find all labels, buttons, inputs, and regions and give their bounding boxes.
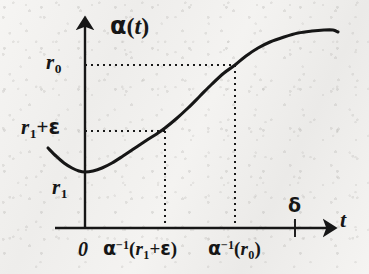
y-tick-label-r1-plus-epsilon: r1+ε	[21, 117, 60, 140]
y-axis-title: α(t)	[110, 14, 149, 38]
close-paren-glyph: )	[141, 13, 149, 39]
alpha-glyph: α	[103, 237, 116, 259]
subscript-1: 1	[60, 186, 67, 201]
alpha-glyph: α	[110, 12, 127, 40]
alpha-curve	[48, 30, 338, 172]
x-tick-label-alpha-inv-r0: α−1(r0)	[208, 239, 261, 261]
plus-glyph: +	[36, 115, 48, 139]
superscript-minus-one: −1	[221, 238, 234, 252]
origin-label: 0	[78, 239, 88, 259]
alpha-glyph: α	[208, 237, 221, 259]
open-paren-glyph: (	[127, 13, 135, 39]
y-tick-label-r0: r0	[46, 52, 61, 75]
subscript-0: 0	[54, 61, 61, 76]
r-glyph: r	[46, 50, 54, 74]
close-paren-glyph: )	[254, 238, 260, 259]
epsilon-glyph: ε	[160, 237, 171, 259]
r-glyph: r	[240, 238, 247, 259]
r-glyph: r	[52, 175, 60, 199]
close-paren-glyph: )	[171, 238, 177, 259]
epsilon-glyph: ε	[48, 115, 60, 139]
plus-glyph: +	[149, 238, 160, 259]
r-glyph: r	[135, 238, 142, 259]
figure-canvas: α(t) r0 r1+ε r1 0 α−1(r1+ε) α−1(r0) δ t	[0, 0, 369, 274]
x-axis-tick-label-delta: δ	[288, 196, 301, 215]
curve-minimum-label-r1: r1	[52, 177, 67, 200]
r-glyph: r	[21, 115, 29, 139]
x-axis-title: t	[340, 209, 346, 231]
superscript-minus-one: −1	[116, 238, 129, 252]
x-tick-label-alpha-inv-r1-plus-epsilon: α−1(r1+ε)	[103, 239, 177, 261]
